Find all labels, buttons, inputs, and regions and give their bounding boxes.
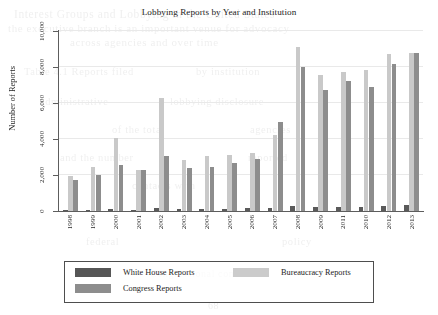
bar-bur	[250, 153, 255, 211]
bar-group	[404, 31, 419, 211]
legend-swatch-bur	[233, 268, 269, 277]
x-tick-label: 2007	[271, 215, 279, 229]
x-tick-label: 2009	[317, 215, 325, 229]
bar-wh	[313, 207, 318, 211]
x-tick-label: 2012	[385, 215, 393, 229]
x-tick-label: 2003	[180, 215, 188, 229]
bar-bur	[318, 75, 323, 211]
bar-group	[336, 31, 351, 211]
bar-bur	[364, 70, 369, 211]
y-tick-mark	[53, 67, 58, 68]
legend-label: White House Reports	[123, 268, 194, 277]
x-tick-label: 2011	[339, 215, 347, 229]
x-tick-label: 1999	[89, 215, 97, 229]
bar-cong	[346, 81, 351, 212]
bar-wh	[63, 210, 68, 211]
x-tick-label: 2005	[226, 215, 234, 229]
y-tick-label: 2,000	[38, 158, 48, 192]
bar-wh	[199, 209, 204, 211]
bar-group	[108, 31, 123, 211]
bar-group	[131, 31, 146, 211]
bar-bur	[136, 170, 141, 211]
bar-wh	[268, 208, 273, 211]
bar-group	[199, 31, 214, 211]
bar-bur	[341, 72, 346, 211]
bar-cong	[164, 156, 169, 211]
bar-group	[86, 31, 101, 211]
bar-cong	[414, 53, 419, 211]
bar-group	[381, 31, 396, 211]
legend-item: White House Reports	[75, 268, 194, 277]
bar-group	[245, 31, 260, 211]
bar-cong	[232, 163, 237, 211]
bar-wh	[245, 208, 250, 211]
bar-group	[290, 31, 305, 211]
y-tick-mark	[53, 103, 58, 104]
x-tick-label: 2006	[248, 215, 256, 229]
x-tick-label: 2001	[135, 215, 143, 229]
bar-wh	[222, 209, 227, 211]
legend-label: Bureaucracy Reports	[281, 268, 351, 277]
bar-group	[177, 31, 192, 211]
x-tick-label: 2013	[408, 215, 416, 229]
bar-bur	[227, 155, 232, 211]
legend-label: Congress Reports	[123, 284, 182, 293]
legend-item: Congress Reports	[75, 284, 182, 293]
bar-cong	[119, 165, 124, 211]
x-tick-label: 2002	[157, 215, 165, 229]
y-tick-mark	[53, 31, 58, 32]
bar-bur	[159, 98, 164, 211]
y-tick-mark	[53, 139, 58, 140]
x-tick-label: 1998	[66, 215, 74, 229]
x-tick-label: 2010	[362, 215, 370, 229]
y-tick-label: 8,000	[38, 50, 48, 84]
bar-cong	[141, 170, 146, 211]
bar-cong	[187, 168, 192, 211]
bar-group	[268, 31, 283, 211]
y-tick-label: 10,000	[38, 14, 48, 48]
bar-cong	[96, 175, 101, 211]
chart-legend: White House ReportsBureaucracy ReportsCo…	[64, 261, 374, 303]
bar-wh	[404, 205, 409, 211]
bar-wh	[359, 207, 364, 212]
bar-wh	[154, 208, 159, 211]
bar-cong	[278, 122, 283, 211]
x-axis-line	[56, 211, 424, 212]
chart-figure: Lobbying Reports by Year and Institution…	[0, 0, 438, 315]
bar-cong	[301, 67, 306, 211]
y-tick-label: 0	[38, 194, 48, 228]
bar-wh	[290, 206, 295, 211]
bar-bur	[91, 167, 96, 211]
bar-cong	[73, 180, 78, 211]
bar-wh	[336, 207, 341, 212]
bar-cong	[323, 90, 328, 211]
plot-area	[59, 31, 423, 211]
y-tick-mark	[53, 211, 58, 212]
x-tick-label: 2000	[112, 215, 120, 229]
bar-bur	[296, 47, 301, 211]
bar-wh	[177, 209, 182, 211]
bar-bur	[114, 138, 119, 211]
bar-wh	[86, 210, 91, 211]
bar-bur	[205, 156, 210, 211]
bar-group	[63, 31, 78, 211]
bar-cong	[369, 87, 374, 211]
bar-group	[222, 31, 237, 211]
bar-bur	[409, 53, 414, 211]
bar-group	[154, 31, 169, 211]
bar-bur	[273, 135, 278, 211]
x-tick-label: 2008	[294, 215, 302, 229]
bar-bur	[68, 176, 73, 211]
bar-group	[313, 31, 328, 211]
y-axis-title: Number of Reports	[8, 66, 17, 131]
chart-title: Lobbying Reports by Year and Institution	[0, 7, 438, 17]
bar-cong	[255, 159, 260, 211]
legend-swatch-cong	[75, 284, 111, 293]
bar-group	[359, 31, 374, 211]
y-tick-mark	[53, 175, 58, 176]
bar-wh	[131, 210, 136, 211]
bar-bur	[182, 160, 187, 211]
legend-item: Bureaucracy Reports	[233, 268, 351, 277]
bar-cong	[392, 64, 397, 211]
bar-cong	[210, 167, 215, 211]
